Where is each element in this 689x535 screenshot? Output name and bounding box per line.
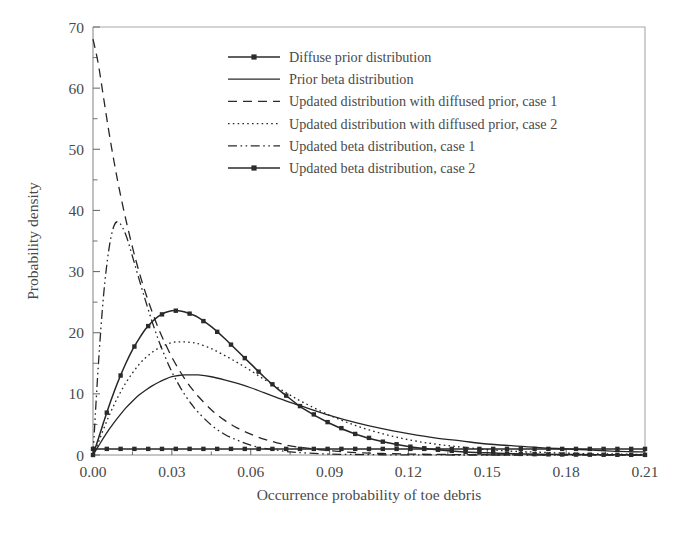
series-marker xyxy=(229,447,233,451)
series-marker xyxy=(229,342,233,346)
series-marker xyxy=(160,447,164,451)
legend-item-3[interactable]: Updated distribution with diffused prior… xyxy=(228,93,557,109)
series-marker xyxy=(146,447,150,451)
series-line xyxy=(93,375,645,455)
series-marker xyxy=(339,447,343,451)
y-tick-label: 20 xyxy=(69,324,85,341)
x-tick-label: 0.15 xyxy=(474,463,501,480)
legend-label-4: Updated distribution with diffused prior… xyxy=(289,116,557,132)
series-line xyxy=(93,311,645,455)
series-marker xyxy=(601,453,605,457)
series-marker xyxy=(629,453,633,457)
legend-marker-6 xyxy=(251,165,256,170)
series-marker xyxy=(546,452,550,456)
series-marker xyxy=(381,447,385,451)
y-tick-label: 50 xyxy=(69,141,85,158)
series-marker xyxy=(353,447,357,451)
series-marker xyxy=(505,451,509,455)
series-6 xyxy=(91,309,647,458)
x-tick-label: 0.03 xyxy=(158,463,185,480)
series-marker xyxy=(615,453,619,457)
series-marker xyxy=(201,447,205,451)
x-tick-label: 0.18 xyxy=(553,463,580,480)
y-tick-label: 10 xyxy=(69,385,85,402)
series-marker xyxy=(298,447,302,451)
series-marker xyxy=(312,412,316,416)
series-marker xyxy=(532,452,536,456)
series-marker xyxy=(91,453,95,457)
series-marker xyxy=(643,453,647,457)
series-marker xyxy=(105,447,109,451)
series-marker xyxy=(450,449,454,453)
series-marker xyxy=(643,447,647,451)
series-marker xyxy=(339,426,343,430)
x-tick-label: 0.12 xyxy=(395,463,422,480)
y-axis-title: Probability density xyxy=(24,182,41,300)
legend-item-1[interactable]: Diffuse prior distribution xyxy=(228,49,431,65)
series-marker xyxy=(284,393,288,397)
series-marker xyxy=(105,410,109,414)
series-marker xyxy=(546,447,550,451)
x-axis-tick-labels: 0.000.030.060.090.120.150.180.21 xyxy=(79,463,658,480)
legend-marker-1 xyxy=(251,54,256,59)
series-line xyxy=(93,222,645,455)
series-marker xyxy=(615,447,619,451)
legend-item-6[interactable]: Updated beta distribution, case 2 xyxy=(228,160,475,176)
series-marker xyxy=(463,450,467,454)
y-tick-label: 60 xyxy=(69,80,85,97)
series-marker xyxy=(187,447,191,451)
series-marker xyxy=(215,330,219,334)
series-marker xyxy=(519,452,523,456)
series-marker xyxy=(436,448,440,452)
legend-item-4[interactable]: Updated distribution with diffused prior… xyxy=(228,116,557,132)
y-tick-label: 30 xyxy=(69,263,85,280)
series-marker xyxy=(491,451,495,455)
series-marker xyxy=(574,452,578,456)
x-tick-label: 0.21 xyxy=(631,463,658,480)
series-marker xyxy=(160,312,164,316)
series-marker xyxy=(367,436,371,440)
series-marker xyxy=(146,324,150,328)
chart-legend: Diffuse prior distributionPrior beta dis… xyxy=(228,49,557,176)
series-marker xyxy=(270,382,274,386)
series-marker xyxy=(588,452,592,456)
y-tick-label: 40 xyxy=(69,202,85,219)
series-marker xyxy=(312,447,316,451)
x-axis-title: Occurrence probability of toe debris xyxy=(257,486,482,503)
series-marker xyxy=(298,404,302,408)
series-marker xyxy=(353,432,357,436)
y-tick-label: 0 xyxy=(76,447,84,464)
legend-item-2[interactable]: Prior beta distribution xyxy=(228,71,414,87)
series-2 xyxy=(93,375,645,455)
series-marker xyxy=(422,446,426,450)
series-marker xyxy=(187,311,191,315)
legend-item-5[interactable]: Updated beta distribution, case 1 xyxy=(228,138,475,154)
legend-label-1: Diffuse prior distribution xyxy=(289,49,431,65)
series-marker xyxy=(284,447,288,451)
legend-label-3: Updated distribution with diffused prior… xyxy=(289,93,557,109)
series-marker xyxy=(560,452,564,456)
series-marker xyxy=(477,450,481,454)
series-marker xyxy=(243,356,247,360)
legend-label-6: Updated beta distribution, case 2 xyxy=(289,160,475,176)
series-marker xyxy=(408,444,412,448)
series-marker xyxy=(629,447,633,451)
y-axis-tick-labels: 010203040506070 xyxy=(69,19,85,464)
series-marker xyxy=(394,442,398,446)
x-tick-label: 0.06 xyxy=(237,463,264,480)
series-marker xyxy=(174,447,178,451)
x-tick-label: 0.00 xyxy=(79,463,106,480)
series-marker xyxy=(381,439,385,443)
figure-container: 0.000.030.060.090.120.150.180.21 0102030… xyxy=(0,0,689,535)
series-marker xyxy=(132,447,136,451)
series-marker xyxy=(174,309,178,313)
series-marker xyxy=(215,447,219,451)
plot-frame-top-right xyxy=(93,27,645,455)
series-marker xyxy=(118,447,122,451)
series-marker xyxy=(118,373,122,377)
y-tick-label: 70 xyxy=(69,19,85,36)
plot-frame xyxy=(93,27,645,455)
series-marker xyxy=(325,420,329,424)
series-marker xyxy=(132,344,136,348)
series-marker xyxy=(394,447,398,451)
